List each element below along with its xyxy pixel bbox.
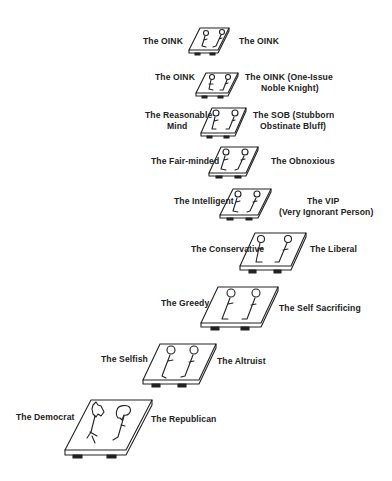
table-5-right-label-line1: The VIP [307,196,339,206]
table-8-left-label: The Selfish [101,354,148,364]
table-9-right-label: The Republican [151,414,216,424]
table-1-oink-oink [189,28,229,55]
table-5-left-label: The Intelligent [174,196,234,206]
table-7-greedy-selfsacrificing [201,287,278,330]
table-1-right-label: The OINK [239,36,279,46]
table-9-left-label: The Democrat [16,412,75,422]
table-3-left-label-line2: Mind [167,121,187,131]
table-3-right-label-line2: Obstinate Bluff) [260,121,326,131]
table-7-left-label: The Greedy [161,298,209,308]
table-6-left-label: The Conservative [191,244,264,254]
table-8-selfish-altruist [143,344,216,387]
table-2-left-label: The OINK [155,72,195,82]
table-8-right-label: The Altruist [217,356,266,366]
table-1-left-label: The OINK [143,36,183,46]
table-6-right-label: The Liberal [310,244,357,254]
table-2-right-label-line2: Noble Knight) [261,83,319,93]
table-4-right-label: The Obnoxious [271,156,335,166]
table-9-democrat-republican [65,400,152,458]
table-7-right-label: The Self Sacrificing [279,303,361,313]
donkey-icon [92,402,104,417]
table-2-oink-oink-noble-knight [196,73,238,98]
table-2-right-label-line1: The OINK (One-Issue [245,72,333,82]
table-3-right-label-line1: The SOB (Stubborn [253,110,334,120]
table-3-left-label-line1: The Reasonable [145,110,212,120]
table-5-right-label-line2: (Very Ignorant Person) [279,207,373,217]
tables-illustration [0,0,392,481]
table-4-left-label: The Fair-minded [151,156,219,166]
